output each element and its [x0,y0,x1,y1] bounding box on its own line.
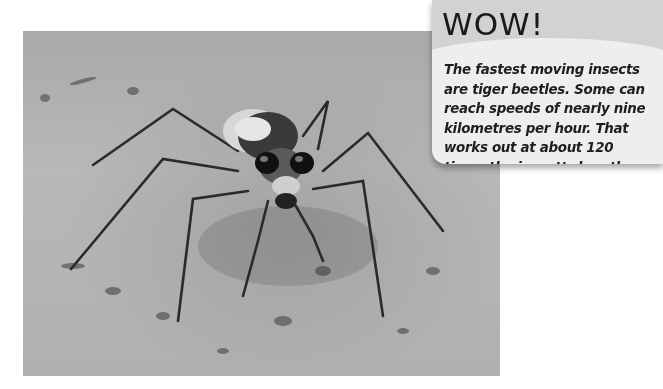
fact-box-title: WOW! [442,6,544,42]
fact-box-text: The fastest moving insects are tiger bee… [444,60,658,164]
tiger-beetle-photo [23,31,500,376]
fact-box: WOW! The fastest moving insects are tige… [432,0,663,164]
beetle-illustration [23,31,500,376]
